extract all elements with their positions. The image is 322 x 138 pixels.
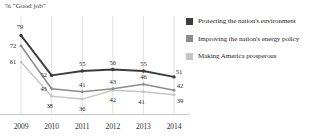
plot-area: 795255565551724341434642613836424139 bbox=[0, 14, 190, 120]
data-point bbox=[50, 95, 53, 98]
x-tick-2013: 2013 bbox=[136, 122, 151, 131]
data-label: 72 bbox=[10, 41, 16, 48]
legend-item-1[interactable]: Improving the nation's energy policy bbox=[186, 35, 322, 44]
x-tick-2010: 2010 bbox=[44, 122, 59, 131]
data-label: 52 bbox=[40, 71, 46, 78]
data-label: 55 bbox=[79, 59, 85, 66]
data-label: 39 bbox=[177, 96, 183, 103]
data-point bbox=[50, 74, 53, 77]
data-point bbox=[19, 34, 22, 37]
data-point bbox=[81, 90, 84, 93]
x-tick-2012: 2012 bbox=[105, 122, 120, 131]
data-point bbox=[81, 69, 84, 72]
data-label: 46 bbox=[140, 73, 146, 80]
legend-label: Making America prosperous bbox=[198, 52, 276, 60]
chart-container: % "Good job" 795255565551724341434642613… bbox=[0, 0, 322, 138]
chart-title: % "Good job" bbox=[5, 2, 46, 10]
data-point bbox=[81, 98, 84, 101]
data-label: 79 bbox=[17, 23, 23, 30]
data-label: 42 bbox=[110, 96, 116, 103]
data-label: 41 bbox=[138, 97, 144, 104]
legend-label: Protecting the nation's environment bbox=[198, 17, 296, 25]
data-label: 38 bbox=[46, 102, 52, 109]
x-axis-tick-labels: 200920102011201220132014 bbox=[0, 122, 190, 136]
line-chart-svg bbox=[0, 14, 190, 120]
legend-label: Improving the nation's energy policy bbox=[198, 35, 299, 43]
data-label: 51 bbox=[176, 67, 182, 74]
x-tick-2009: 2009 bbox=[14, 122, 29, 131]
data-point bbox=[111, 68, 114, 71]
legend-swatch-icon bbox=[186, 18, 193, 25]
data-label: 43 bbox=[110, 77, 116, 84]
data-point bbox=[50, 87, 53, 90]
legend-swatch-icon bbox=[186, 53, 193, 60]
x-tick-2011: 2011 bbox=[75, 122, 89, 131]
legend-item-2[interactable]: Making America prosperous bbox=[186, 52, 322, 61]
data-point bbox=[20, 44, 23, 47]
data-point bbox=[173, 89, 176, 92]
data-label: 61 bbox=[10, 58, 16, 65]
data-label: 42 bbox=[177, 82, 183, 89]
data-label: 56 bbox=[110, 58, 116, 65]
data-label: 55 bbox=[140, 59, 146, 66]
data-point bbox=[142, 90, 145, 93]
data-point bbox=[20, 61, 23, 64]
legend-item-0[interactable]: Protecting the nation's environment bbox=[186, 17, 322, 26]
data-label: 43 bbox=[40, 84, 46, 91]
data-point bbox=[172, 75, 175, 78]
x-tick-2014: 2014 bbox=[167, 122, 182, 131]
data-label: 41 bbox=[79, 80, 85, 87]
data-point bbox=[111, 87, 114, 90]
legend-swatch-icon bbox=[186, 35, 193, 42]
data-point bbox=[142, 83, 145, 86]
chart-legend: Protecting the nation's environmentImpro… bbox=[186, 17, 322, 70]
data-point bbox=[173, 93, 176, 96]
data-label: 36 bbox=[79, 105, 85, 112]
series-line-2 bbox=[21, 62, 174, 99]
